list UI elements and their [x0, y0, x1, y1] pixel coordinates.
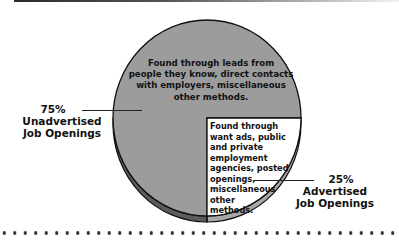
unadvertised-label: 75% Unadvertised Job Openings — [22, 103, 102, 139]
text-line: miscellaneous — [210, 184, 300, 195]
text-line: other — [210, 195, 300, 206]
text-line: agencies, posted — [210, 163, 300, 174]
text-line: other methods. — [116, 92, 306, 103]
advertised-slice-description: Found through want ads, public and priva… — [210, 121, 300, 216]
advertised-title-line1: Advertised — [295, 185, 375, 197]
advertised-percent: 25% — [295, 173, 375, 185]
text-line: and private — [210, 142, 300, 153]
unadvertised-slice-description: Found through leads from people they kno… — [116, 58, 306, 103]
advertised-label: 25% Advertised Job Openings — [295, 173, 375, 209]
text-line: want ads, public — [210, 132, 300, 143]
text-line: people they know, direct contacts — [116, 69, 306, 80]
unadvertised-percent: 75% — [22, 103, 102, 115]
unadvertised-title-line2: Job Openings — [22, 127, 102, 139]
text-line: employment — [210, 153, 300, 164]
text-line: Found through — [210, 121, 300, 132]
text-line: with employers, miscellaneous — [116, 80, 306, 91]
text-line: openings, — [210, 174, 300, 185]
dotted-divider — [0, 230, 399, 236]
text-line: Found through leads from — [116, 58, 306, 69]
text-line: methods. — [210, 205, 300, 216]
unadvertised-title-line1: Unadvertised — [22, 115, 102, 127]
advertised-title-line2: Job Openings — [295, 197, 375, 209]
